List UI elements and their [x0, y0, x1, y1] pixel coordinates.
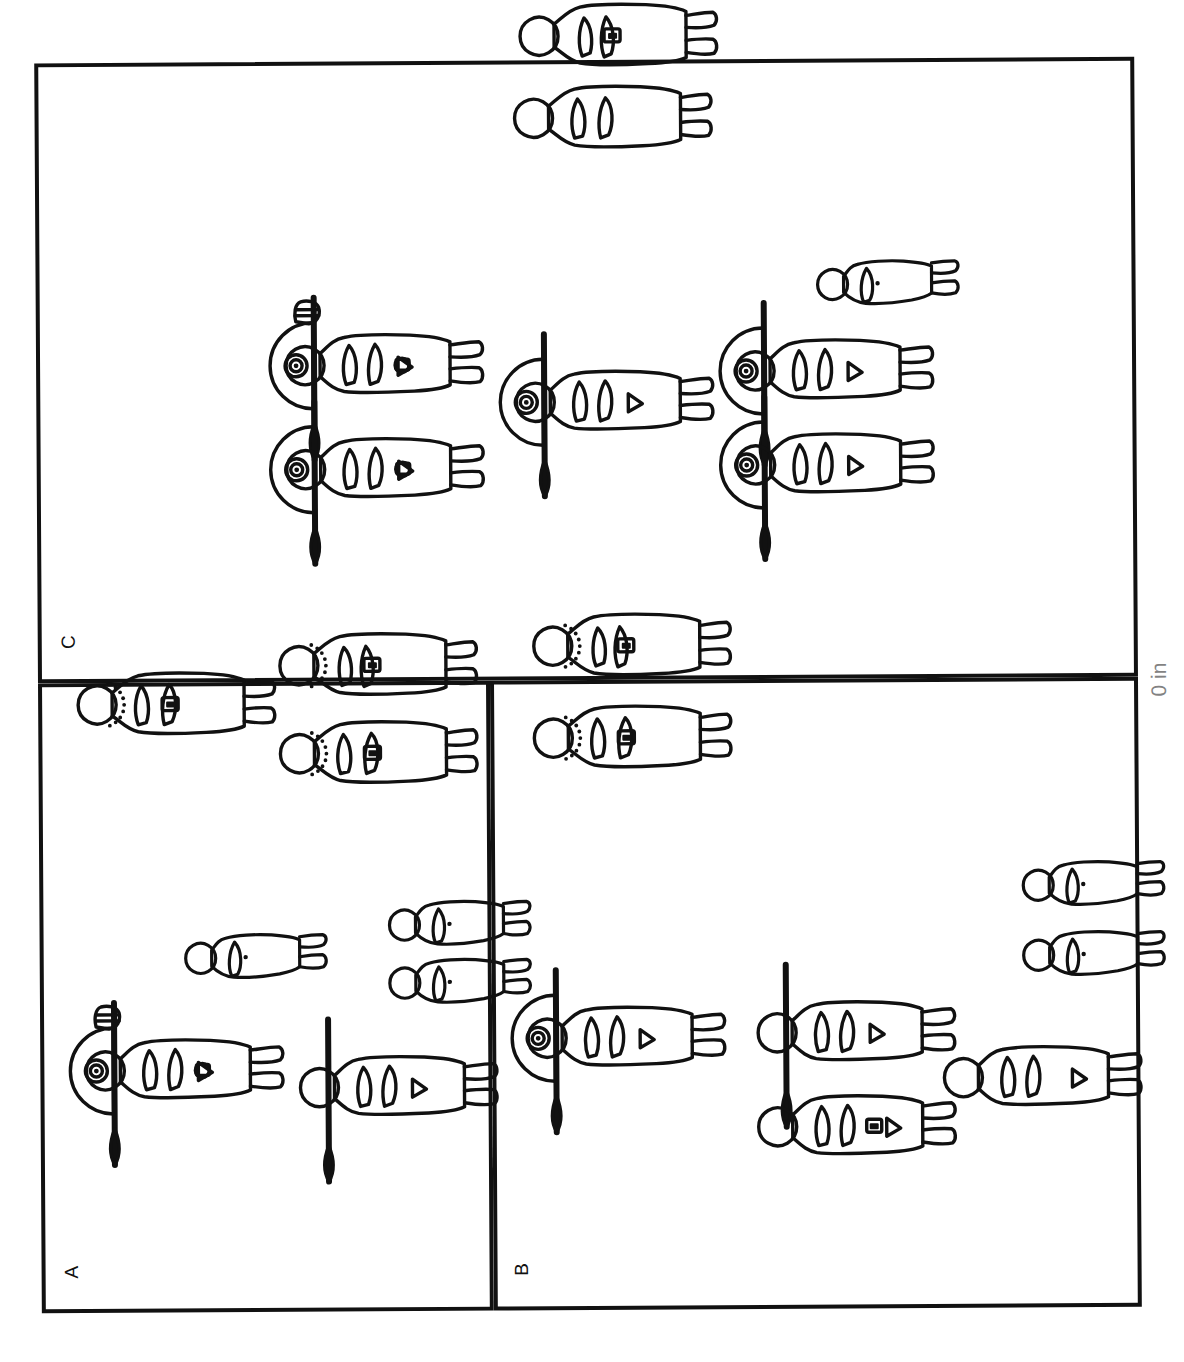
caption-fragment: 0 in — [1145, 576, 1172, 696]
warrior-7 — [516, 947, 747, 1098]
spear-bearer-1 — [288, 996, 519, 1147]
figure-drawing-layer — [0, 0, 1180, 4]
warrior-6 — [74, 980, 305, 1131]
panel-b-label: B — [511, 1263, 533, 1276]
warrior-3 — [504, 311, 735, 462]
warrior-5 — [724, 374, 955, 525]
robed-person-2 — [502, 27, 733, 178]
panel-a-label: A — [61, 1266, 83, 1279]
figure-plate: C A B 0 in — [0, 0, 1184, 1362]
plain-person-2 — [932, 987, 1163, 1138]
robed-person-3 — [66, 614, 297, 765]
child-6 — [1009, 896, 1180, 997]
robed-person-7 — [522, 647, 753, 798]
warrior-2 — [274, 379, 505, 530]
robed-person-5 — [268, 663, 499, 814]
